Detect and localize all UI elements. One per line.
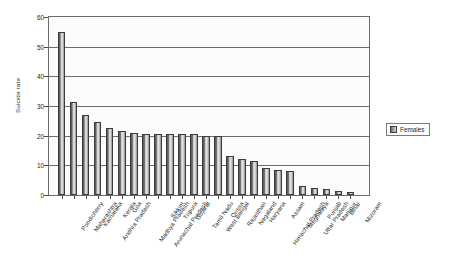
x-axis-category-labels: PondicherryMaharashtraKarnatakaAndhra Pr… [49,200,389,279]
bar [58,32,65,195]
x-axis-tick-mark [170,196,171,199]
y-axis-tick-label: 30 [22,103,44,110]
x-axis-tick-mark [74,196,75,199]
bar [335,191,342,195]
bar [82,115,89,195]
bar [347,192,354,195]
bar [154,134,161,195]
x-axis-tick-mark [278,196,279,199]
bar [106,128,113,195]
x-axis-tick-mark [218,196,219,199]
x-axis-tick-mark [110,196,111,199]
bar [130,133,137,195]
bar [214,136,221,195]
x-axis-tick-mark [206,196,207,199]
x-axis-tick-mark [194,196,195,199]
x-axis-tick-mark [230,196,231,199]
x-axis-label: Assam [289,200,306,220]
y-axis-tick-label: 40 [22,73,44,80]
y-axis-tick-mark [44,47,48,48]
bar [286,171,293,195]
bar [190,134,197,195]
bar [250,161,257,195]
legend: Females [386,123,430,136]
x-axis-tick-mark [86,196,87,199]
x-axis-tick-mark [134,196,135,199]
x-axis-tick-mark [146,196,147,199]
x-axis-tick-mark [290,196,291,199]
y-axis-tick-label: 0 [22,192,44,199]
y-axis-title: Suicide rate [14,51,21,141]
x-axis-tick-mark [338,196,339,199]
legend-label-females: Females [400,126,425,133]
y-axis-tick-label: 50 [22,43,44,50]
bar [299,186,306,195]
x-axis-tick-mark [302,196,303,199]
bar [323,189,330,195]
legend-swatch-females-icon [390,126,397,133]
bar [226,156,233,195]
x-axis-tick-mark [182,196,183,199]
x-axis-tick-mark [314,196,315,199]
x-axis-tick-mark [62,196,63,199]
bar [70,102,77,195]
bar [202,136,209,195]
bar [94,122,101,195]
x-axis-tick-mark [326,196,327,199]
bar [118,131,125,195]
bar [166,134,173,195]
bar [178,134,185,195]
y-axis-tick-mark [44,165,48,166]
x-axis-tick-mark [158,196,159,199]
suicide-rate-bar-chart: Suicide rate 6050403020100 PondicherryMa… [0,0,450,279]
y-axis-tick-label: 10 [22,162,44,169]
y-axis-tick-mark [44,195,48,196]
y-axis-tick-mark [44,17,48,18]
bar [238,159,245,195]
bars-container [49,17,369,195]
y-axis-tick-mark [44,76,48,77]
bar [274,170,281,195]
x-axis-tick-mark [350,196,351,199]
x-axis-tick-mark [254,196,255,199]
y-axis-tick-mark [44,136,48,137]
bar [142,134,149,195]
x-axis-tick-mark [122,196,123,199]
bar [311,188,318,195]
x-axis-label: Mizoram [364,200,384,224]
y-axis-tick-labels: 6050403020100 [22,16,44,196]
x-axis-tick-mark [266,196,267,199]
x-axis-tick-mark [242,196,243,199]
y-axis-tick-label: 60 [22,14,44,21]
y-axis-tick-label: 20 [22,132,44,139]
y-axis-tick-mark [44,106,48,107]
bar [262,168,269,195]
